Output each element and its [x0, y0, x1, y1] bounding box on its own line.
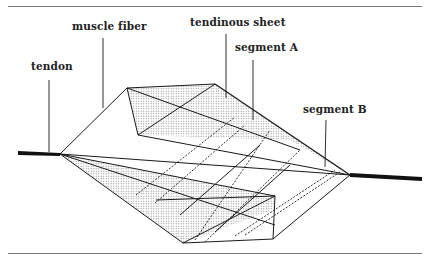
- muscle-diagram: [0, 0, 435, 265]
- tendon-right: [350, 173, 422, 181]
- tendon-left: [18, 151, 60, 156]
